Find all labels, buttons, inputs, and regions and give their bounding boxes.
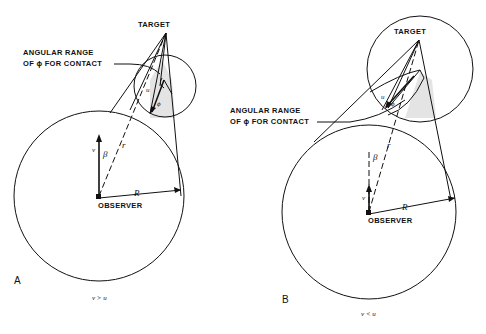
panel-b-range-line-r <box>369 40 419 212</box>
panel-b-R-label: R <box>401 202 408 212</box>
panel-b-u-label: u <box>381 93 385 101</box>
panel-a-phi-small-label: ϕ <box>157 100 161 108</box>
panel-a-target-label: TARGET <box>138 20 170 29</box>
panel-b-R-arrowhead <box>448 196 455 202</box>
panel-b: u ϕ TARGET ANGULAR RANGE OF ϕ FOR CONTAC… <box>230 16 473 318</box>
panel-b-tangent-right <box>419 40 451 200</box>
panel-b-observer-marker <box>366 210 371 215</box>
panel-b-label: B <box>282 294 289 305</box>
panel-b-target-label: TARGET <box>394 27 426 36</box>
panel-a-label: A <box>14 275 21 286</box>
panel-a-condition: v > u <box>92 294 107 302</box>
panel-b-tangent-left <box>314 40 419 142</box>
panel-a-v-arrowhead <box>96 134 102 142</box>
panel-a-u-label: u <box>146 86 150 94</box>
panel-b-angular-range-label-1: ANGULAR RANGE <box>230 106 301 115</box>
panel-b-beta-label: β <box>372 152 378 162</box>
panel-a-radius-R <box>99 190 181 198</box>
panel-a-angular-range-label-2: OF ϕ FOR CONTACT <box>23 59 102 68</box>
panel-a: u ϕ TARGET ANGULAR RANGE OF ϕ FOR CONTAC… <box>14 20 196 302</box>
panel-a-v-label: v <box>92 146 96 154</box>
panel-a-beta-label: β <box>102 149 108 159</box>
panel-b-v-arrowhead <box>366 184 372 192</box>
panel-b-angular-range-label-2: OF ϕ FOR CONTACT <box>230 117 309 126</box>
panel-b-observer-label: OBSERVER <box>368 216 413 225</box>
panel-b-radius-R <box>369 198 455 214</box>
panel-b-r-label: r <box>387 140 391 150</box>
panel-b-v-label: v <box>362 194 366 202</box>
diagram-canvas: u ϕ TARGET ANGULAR RANGE OF ϕ FOR CONTAC… <box>0 0 486 334</box>
panel-a-observer-marker <box>96 194 101 199</box>
panel-b-condition: v < u <box>361 310 376 318</box>
panel-a-observer-label: OBSERVER <box>98 201 143 210</box>
panel-b-contact-region <box>405 72 436 118</box>
panel-a-R-label: R <box>133 188 140 198</box>
panel-a-r-label: r <box>122 140 126 150</box>
panel-a-angular-range-label-1: ANGULAR RANGE <box>23 48 94 57</box>
